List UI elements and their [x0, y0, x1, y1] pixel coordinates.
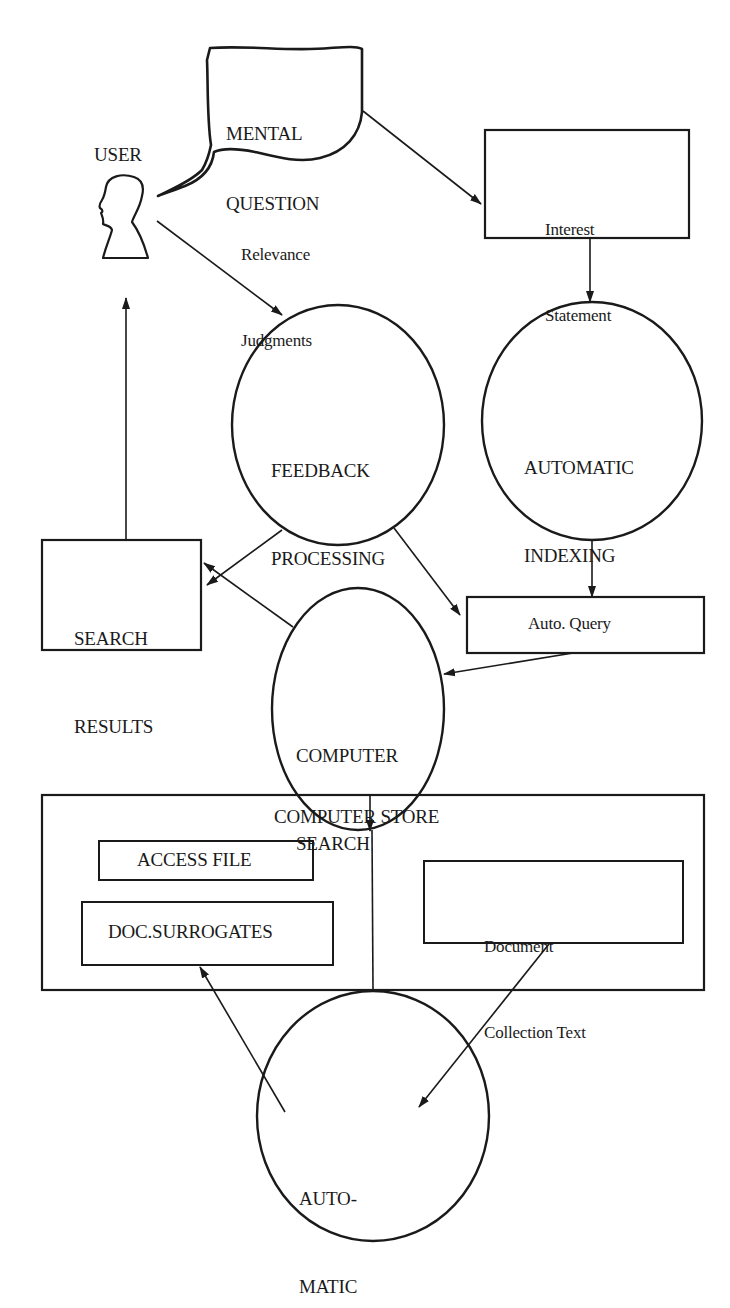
- interest-statement-label: Interest Statement: [545, 158, 611, 360]
- document-collection-text-line2: Collection Text: [484, 1019, 586, 1048]
- relevance-judgments-line1: Relevance: [241, 241, 312, 270]
- document-collection-text-label: Document Collection Text: [484, 875, 586, 1077]
- feedback-processing-line1: FEEDBACK: [271, 456, 385, 485]
- access-file-label: ACCESS FILE: [137, 848, 251, 871]
- search-results-line2: RESULTS: [74, 712, 153, 741]
- computer-search-label: COMPUTER SEARCH: [296, 682, 398, 888]
- arrow-feedback-to-auto-query: [394, 528, 460, 615]
- relevance-judgments-line2: Judgments: [241, 327, 312, 356]
- feedback-processing-label: FEEDBACK PROCESSING: [271, 397, 385, 603]
- interest-statement-line1: Interest: [545, 216, 611, 245]
- search-results-label: SEARCH RESULTS: [74, 565, 153, 771]
- automatic-indexing-bottom-line2: MATIC: [299, 1272, 390, 1301]
- computer-search-line1: COMPUTER: [296, 741, 398, 770]
- automatic-indexing-top-label: AUTOMATIC INDEXING: [524, 394, 634, 600]
- document-collection-text-line1: Document: [484, 933, 586, 962]
- automatic-indexing-top-line2: INDEXING: [524, 541, 634, 570]
- computer-search-line2: SEARCH: [296, 829, 398, 858]
- arrow-mental-question-to-interest: [363, 111, 481, 204]
- feedback-processing-line2: PROCESSING: [271, 544, 385, 573]
- search-results-line1: SEARCH: [74, 624, 153, 653]
- auto-query-label: Auto. Query: [528, 614, 611, 635]
- automatic-indexing-bottom-label: AUTO- MATIC INDEXING: [299, 1125, 390, 1308]
- doc-surrogates-label: DOC.SURROGATES: [108, 920, 273, 943]
- computer-store-label: COMPUTER STORE: [274, 805, 439, 828]
- user-label: USER: [94, 143, 142, 166]
- arrow-indexing-to-surrogates: [200, 967, 285, 1112]
- user-head-silhouette-icon: [100, 175, 148, 258]
- automatic-indexing-bottom-line1: AUTO-: [299, 1184, 390, 1213]
- arrow-auto-query-to-search: [444, 653, 573, 674]
- relevance-judgments-label: Relevance Judgments: [241, 183, 312, 385]
- interest-statement-line2: Statement: [545, 302, 611, 331]
- automatic-indexing-top-line1: AUTOMATIC: [524, 453, 634, 482]
- mental-question-line1: MENTAL: [226, 122, 319, 145]
